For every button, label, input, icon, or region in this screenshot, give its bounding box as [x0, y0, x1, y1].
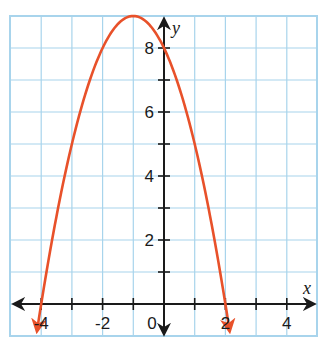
y-tick-label: 8 — [145, 39, 154, 58]
y-axis-label: y — [170, 18, 180, 38]
x-tick-label: -4 — [34, 314, 49, 333]
parabola-chart: -4-20242468xy — [0, 0, 322, 355]
x-tick-label: 2 — [221, 314, 230, 333]
x-tick-label: 0 — [147, 314, 156, 333]
y-tick-label: 4 — [145, 167, 154, 186]
y-tick-label: 6 — [145, 103, 154, 122]
x-tick-label: 4 — [282, 314, 291, 333]
x-axis-label: x — [302, 278, 311, 298]
y-tick-label: 2 — [145, 231, 154, 250]
x-tick-label: -2 — [95, 314, 110, 333]
